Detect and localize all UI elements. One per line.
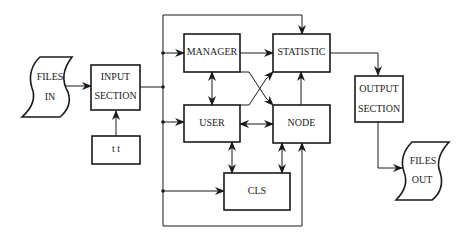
cls-node: CLS bbox=[224, 173, 290, 210]
output-section-node: OUTPUT SECTION bbox=[355, 76, 403, 122]
tt-node: t t bbox=[92, 136, 140, 164]
files-out-node: FILES OUT bbox=[396, 142, 449, 200]
user-label: USER bbox=[199, 117, 225, 128]
manager-node: MANAGER bbox=[184, 34, 240, 72]
tt-label: t t bbox=[112, 143, 120, 154]
node-node: NODE bbox=[273, 105, 330, 143]
block-diagram: FILES IN INPUT SECTION t t MANAGER STATI… bbox=[0, 0, 472, 240]
files-out-line1: FILES bbox=[410, 155, 437, 166]
input-section-line1: INPUT bbox=[101, 71, 130, 82]
output-section-line1: OUTPUT bbox=[359, 83, 398, 94]
user-node: USER bbox=[184, 105, 240, 142]
edge-output-to-files-out bbox=[378, 122, 402, 168]
manager-label: MANAGER bbox=[187, 46, 238, 57]
files-in-line2: IN bbox=[45, 91, 56, 102]
files-in-line1: FILES bbox=[37, 71, 64, 82]
files-out-line2: OUT bbox=[412, 174, 433, 185]
input-section-line2: SECTION bbox=[94, 90, 136, 101]
node-label: NODE bbox=[288, 117, 316, 128]
edge-statistic-to-output bbox=[330, 53, 378, 75]
cls-label: CLS bbox=[248, 185, 266, 196]
output-section-line2: SECTION bbox=[358, 103, 400, 114]
files-in-node: FILES IN bbox=[22, 57, 72, 117]
edge-bus-to-statistic bbox=[163, 15, 302, 34]
bus-junction bbox=[161, 85, 165, 89]
statistic-label: STATISTIC bbox=[277, 46, 325, 57]
input-section-node: INPUT SECTION bbox=[91, 65, 140, 110]
statistic-node: STATISTIC bbox=[273, 34, 330, 72]
